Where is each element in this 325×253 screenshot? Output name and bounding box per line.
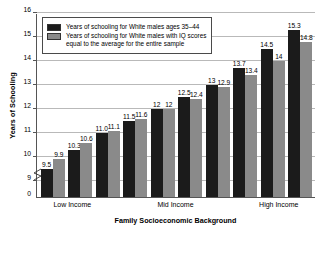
y-tick-label: 13 <box>23 78 31 85</box>
bar-value-label: 14.5 <box>260 42 273 49</box>
y-tick-label: 15 <box>23 30 31 37</box>
gridline <box>37 12 315 13</box>
x-tick-label: High Income <box>259 201 298 208</box>
bar-gray: 12 <box>163 109 175 197</box>
bar-group: 14.514 <box>259 14 287 197</box>
y-axis-tick <box>33 12 37 13</box>
bar-group: 15.314.8 <box>287 14 315 197</box>
bar-value-label: 13.7 <box>233 61 246 68</box>
bar-value-label: 11.0 <box>96 126 108 133</box>
legend-swatch-icon-gray <box>47 33 61 40</box>
y-tick-label: 14 <box>23 54 31 61</box>
legend-entry-gray: Years of schooling for White males with … <box>47 32 207 48</box>
bar-gray: 10.6 <box>80 143 92 197</box>
bar-value-label: 12 <box>165 102 172 109</box>
legend-swatch-icon-dark <box>47 24 61 31</box>
bar-dark: 10.3 <box>68 150 80 197</box>
bar-value-label: 9.9 <box>54 152 63 159</box>
bar-gray: 11.6 <box>135 119 147 197</box>
legend-label-dark: Years of schooling for White males ages … <box>66 23 199 31</box>
bar-dark: 15.3 <box>288 30 300 197</box>
bar-value-label: 15.3 <box>288 23 301 30</box>
bar-value-label: 12.9 <box>217 80 230 87</box>
y-tick-label: 16 <box>23 6 31 13</box>
bar-gray: 12.9 <box>218 87 230 197</box>
bar-dark: 9.5 <box>41 169 53 197</box>
bar-value-label: 12.5 <box>178 90 191 97</box>
bar-chart: Years of Schooling 9101112131415160 9.59… <box>0 0 325 253</box>
legend-entry-dark: Years of schooling for White males ages … <box>47 23 207 31</box>
bar-value-label: 9.5 <box>42 162 51 169</box>
bar-gray: 12.4 <box>190 99 202 197</box>
x-axis-title: Family Socioeconomic Background <box>36 216 315 225</box>
bar-value-label: 11.6 <box>135 112 147 119</box>
bar-gray: 11.1 <box>108 131 120 197</box>
bar-dark: 12.5 <box>178 97 190 197</box>
x-tick-label: Mid Income <box>157 201 193 208</box>
y-tick-label: 10 <box>23 150 31 157</box>
x-tick-label: Low Income <box>53 201 91 208</box>
bar-gray: 9.9 <box>53 159 65 197</box>
bar-value-label: 10.6 <box>80 136 93 143</box>
bar-group: 13.713.4 <box>232 14 260 197</box>
bar-dark: 12 <box>151 109 163 197</box>
bar-dark: 11.5 <box>123 121 135 197</box>
bar-value-label: 12.4 <box>190 92 203 99</box>
y-tick-label: 12 <box>23 102 31 109</box>
bar-gray: 14 <box>273 61 285 197</box>
x-tick-labels: Low IncomeMid IncomeHigh Income <box>36 201 315 213</box>
bar-gray: 13.4 <box>245 75 257 197</box>
legend-label-gray: Years of schooling for White males with … <box>66 32 207 48</box>
bar-dark: 13.7 <box>233 68 245 197</box>
bar-value-label: 14 <box>275 54 282 61</box>
chart-legend: Years of schooling for White males ages … <box>42 17 212 54</box>
bar-value-label: 14.8 <box>300 35 313 42</box>
bar-value-label: 11.5 <box>123 114 135 121</box>
bar-dark: 13 <box>206 85 218 197</box>
y-axis-title: Years of Schooling <box>8 61 17 151</box>
y-tick-label: 9 <box>27 174 31 181</box>
bar-value-label: 10.3 <box>68 143 81 150</box>
bar-value-label: 11.1 <box>108 124 120 131</box>
bar-value-label: 13 <box>208 78 215 85</box>
bar-dark: 11.0 <box>96 133 108 197</box>
bar-value-label: 12 <box>153 102 160 109</box>
bar-dark: 14.5 <box>261 49 273 197</box>
bar-gray: 14.8 <box>300 42 312 197</box>
y-tick-label: 11 <box>24 126 31 133</box>
y-tick-label-zero: 0 <box>27 190 31 197</box>
bar-value-label: 13.4 <box>245 68 258 75</box>
